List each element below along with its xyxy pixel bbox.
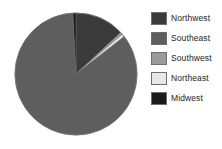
legend-label-southeast: Southeast [171, 33, 210, 43]
pie-slice-group [15, 13, 137, 135]
legend-swatch-southwest [151, 52, 167, 65]
legend-label-northwest: Northwest [171, 13, 210, 23]
legend-swatch-northwest [151, 12, 167, 25]
legend-item[interactable]: Northeast [151, 68, 222, 88]
legend-item[interactable]: Southeast [151, 28, 222, 48]
legend-label-midwest: Midwest [171, 93, 203, 103]
legend-item[interactable]: Southwest [151, 48, 222, 68]
legend-swatch-southeast [151, 32, 167, 45]
pie-svg [0, 0, 148, 149]
legend-swatch-midwest [151, 92, 167, 105]
pie-plot-area [0, 0, 148, 149]
legend-item[interactable]: Midwest [151, 88, 222, 108]
chart-legend: Northwest Southeast Southwest Northeast … [151, 8, 222, 112]
legend-label-southwest: Southwest [171, 53, 212, 63]
pie-chart-figure: Northwest Southeast Southwest Northeast … [0, 0, 222, 149]
legend-swatch-northeast [151, 72, 167, 85]
legend-item[interactable]: Northwest [151, 8, 222, 28]
legend-label-northeast: Northeast [171, 73, 209, 83]
